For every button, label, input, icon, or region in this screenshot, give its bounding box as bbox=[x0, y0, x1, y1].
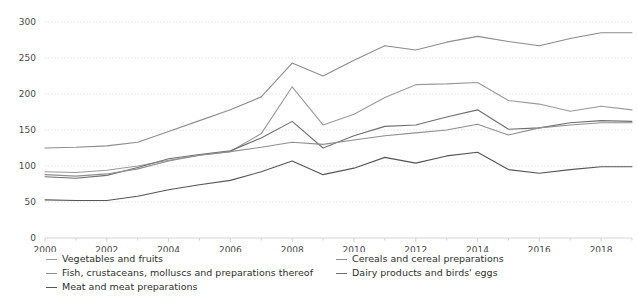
x-axis-tick-label: 2012 bbox=[404, 245, 427, 252]
legend-swatch-icon bbox=[46, 259, 57, 260]
y-axis-tick-label: 250 bbox=[19, 53, 36, 63]
y-axis-tick-label: 150 bbox=[19, 125, 36, 135]
y-axis-tick-label: 200 bbox=[19, 89, 36, 99]
x-axis-tick-label: 2010 bbox=[342, 245, 365, 252]
legend-item[interactable]: Vegetables and fruits bbox=[46, 252, 313, 266]
x-axis-tick-label: 2018 bbox=[590, 245, 613, 252]
series-line bbox=[45, 152, 632, 200]
series-line bbox=[45, 33, 632, 148]
legend-item-label: Vegetables and fruits bbox=[62, 252, 163, 266]
y-axis-tick-label: 300 bbox=[19, 17, 36, 27]
x-axis-tick-label: 2016 bbox=[528, 245, 551, 252]
x-axis-tick-label: 2006 bbox=[219, 245, 242, 252]
legend-swatch-icon bbox=[336, 259, 347, 260]
x-axis-tick-label: 2002 bbox=[95, 245, 118, 252]
legend-swatch-icon bbox=[46, 273, 57, 274]
x-axis-tick-label: 2014 bbox=[466, 245, 489, 252]
legend-item[interactable]: Cereals and cereal preparations bbox=[336, 252, 504, 266]
legend-column-left: Vegetables and fruitsFish, crustaceans, … bbox=[46, 252, 313, 294]
x-axis-tick-label: 2008 bbox=[281, 245, 304, 252]
chart-legend: Vegetables and fruitsFish, crustaceans, … bbox=[0, 252, 638, 307]
legend-item-label: Fish, crustaceans, molluscs and preparat… bbox=[62, 266, 313, 280]
legend-item[interactable]: Fish, crustaceans, molluscs and preparat… bbox=[46, 266, 313, 280]
line-chart: 0501001502002503002000200220042006200820… bbox=[0, 0, 638, 307]
y-axis-tick-label: 0 bbox=[30, 233, 36, 243]
legend-column-right: Cereals and cereal preparationsDairy pro… bbox=[336, 252, 504, 280]
x-axis-tick-label: 2004 bbox=[157, 245, 180, 252]
legend-swatch-icon bbox=[46, 287, 57, 288]
legend-item-label: Cereals and cereal preparations bbox=[352, 252, 504, 266]
legend-item[interactable]: Meat and meat preparations bbox=[46, 280, 313, 294]
chart-plot-area: 0501001502002503002000200220042006200820… bbox=[0, 0, 638, 252]
legend-item[interactable]: Dairy products and birds' eggs bbox=[336, 266, 504, 280]
y-axis-tick-label: 50 bbox=[25, 197, 37, 207]
legend-swatch-icon bbox=[336, 273, 347, 274]
legend-item-label: Meat and meat preparations bbox=[62, 280, 197, 294]
legend-item-label: Dairy products and birds' eggs bbox=[352, 266, 498, 280]
y-axis-tick-label: 100 bbox=[19, 161, 36, 171]
x-axis-tick-label: 2000 bbox=[34, 245, 57, 252]
